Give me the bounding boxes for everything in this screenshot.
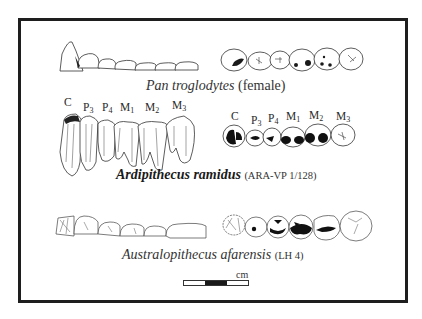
label-occlusal-c: C — [231, 111, 239, 123]
species-name: Pan troglodytes — [146, 78, 235, 93]
specimen-id: (LH 4) — [275, 250, 304, 261]
caption-ardipithecus: Ardipithecus ramidus (ARA-VP 1/128) — [116, 167, 317, 183]
pan-lateral-teeth-drawing — [58, 38, 208, 74]
scale-bar-black-segment — [205, 281, 227, 285]
caption-australopithecus: Australopithecus afarensis (LH 4) — [122, 247, 304, 263]
caption-pan: Pan troglodytes (female) — [146, 78, 285, 94]
ardipithecus-occlusal-teeth-drawing — [222, 122, 362, 150]
scale-bar-unit-label: cm — [236, 269, 248, 280]
specimen-id: (female) — [238, 78, 285, 93]
species-name: Australopithecus afarensis — [122, 247, 271, 262]
pan-occlusal-teeth-drawing — [220, 45, 370, 75]
scale-bar — [183, 280, 249, 286]
species-name: Ardipithecus ramidus — [116, 167, 241, 182]
australopithecus-lateral-teeth-drawing — [54, 212, 214, 242]
australopithecus-occlusal-teeth-drawing — [222, 210, 382, 246]
label-lateral-c: C — [64, 97, 72, 109]
specimen-id: (ARA-VP 1/128) — [244, 170, 316, 181]
